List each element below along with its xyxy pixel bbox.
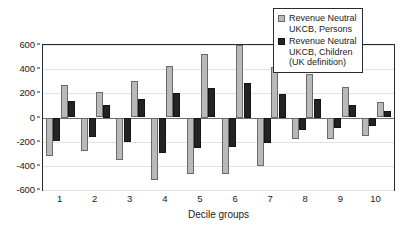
bar-persons-negative [151,118,158,180]
y-axis: 6004002000-200-400-600 [0,44,40,191]
x-axis-tick-label: 5 [197,193,202,204]
bar-persons-positive [166,66,173,118]
legend-swatch-icon [278,15,285,22]
x-axis-tick-label: 10 [370,193,381,204]
bar-children-positive [208,88,215,118]
x-axis-title: Decile groups [42,209,395,220]
chart-figure: 6004002000-200-400-600 12345678910 Decil… [0,0,406,230]
y-axis-tick-label: 0 [30,111,35,122]
bar-children-negative [194,118,201,148]
bar-persons-positive [201,54,208,117]
bar-persons-negative [81,118,88,151]
y-axis-tick-label: 200 [19,87,35,98]
bar-children-negative [229,118,236,148]
bar-persons-negative [116,118,123,160]
x-axis-tick-label: 3 [127,193,132,204]
chart-legend: Revenue Neutral UKCB, Persons Revenue Ne… [273,8,363,73]
legend-item-label: Revenue Neutral UKCB, Persons [289,13,357,34]
x-axis-tick-label: 8 [303,193,308,204]
legend-swatch-icon [278,38,285,45]
y-axis-tick-mark [37,68,40,69]
bar-persons-positive [271,67,278,118]
bar-children-negative [159,118,166,153]
legend-item: Revenue Neutral UKCB, Children (UK defin… [278,36,357,68]
gridline [43,142,394,143]
bar-persons-negative [257,118,264,167]
bar-children-negative [53,118,60,142]
x-axis-tick-label: 2 [92,193,97,204]
legend-item: Revenue Neutral UKCB, Persons [278,13,357,34]
bar-children-negative [334,118,341,129]
bar-children-positive [384,111,391,117]
bar-children-positive [173,93,180,118]
bar-children-negative [264,118,271,143]
y-axis-tick-mark [37,92,40,93]
gridline [43,190,394,191]
bar-persons-positive [377,102,384,118]
bar-children-positive [244,83,251,117]
y-axis-tick-label: 400 [19,63,35,74]
x-axis-tick-label: 6 [232,193,237,204]
bar-persons-positive [61,85,68,118]
bar-children-positive [279,94,286,118]
bar-children-negative [299,118,306,131]
bar-persons-positive [236,45,243,118]
bar-children-positive [349,105,356,117]
bar-children-negative [369,118,376,126]
y-axis-tick-label: 600 [19,39,35,50]
bar-persons-negative [327,118,334,139]
x-axis-tick-label: 7 [267,193,272,204]
y-axis-tick-label: -600 [16,184,35,195]
bar-children-positive [138,99,145,118]
bar-persons-negative [362,118,369,136]
x-axis-tick-label: 9 [338,193,343,204]
bar-persons-negative [292,118,299,140]
y-axis-tick-mark [37,189,40,190]
bar-children-positive [68,101,75,118]
legend-item-label: Revenue Neutral UKCB, Children (UK defin… [289,36,357,68]
y-axis-tick-mark [37,164,40,165]
bar-persons-positive [96,92,103,118]
y-axis-tick-mark [37,116,40,117]
bar-children-negative [124,118,131,142]
bar-persons-positive [342,87,349,117]
y-axis-tick-label: -400 [16,159,35,170]
y-axis-tick-mark [37,140,40,141]
bar-persons-negative [46,118,53,157]
bar-persons-negative [222,118,229,174]
bar-children-positive [103,105,110,118]
gridline [43,166,394,167]
bar-children-negative [89,118,96,137]
y-axis-tick-label: -200 [16,135,35,146]
x-axis-tick-label: 4 [162,193,167,204]
zero-line [43,118,394,119]
x-axis-tick-label: 1 [57,193,62,204]
bar-persons-negative [187,118,194,175]
x-axis: 12345678910 [42,193,395,209]
y-axis-tick-mark [37,44,40,45]
bar-persons-positive [306,74,313,118]
bar-persons-positive [131,81,138,118]
bar-children-positive [314,99,321,117]
